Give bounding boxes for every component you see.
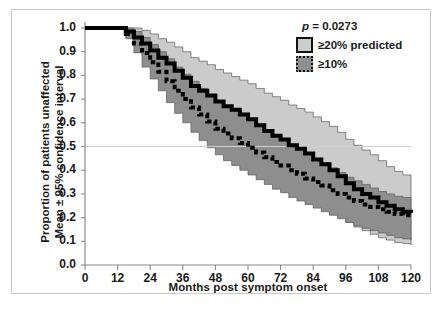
legend-swatch-10pct-icon	[296, 56, 313, 72]
y-axis-title-line1: Proportion of patients unaffected	[38, 61, 52, 242]
x-axis-title: Months post symptom onset	[85, 281, 411, 293]
y-axis-title: Proportion of patients unaffected Mean ±…	[35, 27, 69, 277]
chart-legend: p = 0.0273 ≥20% predicted ≥10%	[296, 20, 428, 75]
p-value-text: = 0.0273	[309, 20, 357, 32]
legend-item-20pct: ≥20% predicted	[296, 37, 428, 53]
legend-swatch-20pct-icon	[296, 37, 313, 53]
figure-container: 0.00.10.20.30.40.50.60.70.80.91.0 012243…	[0, 0, 442, 310]
legend-label-20pct: ≥20% predicted	[318, 39, 402, 51]
legend-label-10pct: ≥10%	[318, 58, 347, 70]
legend-item-10pct: ≥10%	[296, 56, 428, 72]
p-value-annotation: p = 0.0273	[302, 20, 428, 32]
y-axis-title-line2: Mean ± 95% confidence interval	[52, 65, 66, 238]
p-symbol: p	[302, 20, 309, 32]
